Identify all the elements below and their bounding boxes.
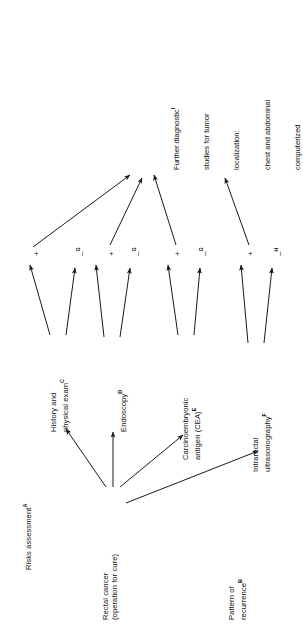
marker-symbol: – [133,252,142,256]
node-carcinoembryonic-antigen: Carcinoembryonicantigen (CEA)E [182,398,202,460]
further-studies-line: studies for tumor [202,62,212,170]
cea-line2: antigen (CEA)E [191,398,202,460]
edges-markers-to-further-studies [33,175,249,247]
node-further-diagnostic-studies: Further diagnosticI studies for tumor lo… [150,62,303,170]
marker-symbol: + [107,251,116,256]
marker-cea-negative: –G [199,248,209,257]
ultrasound-superscript: F [261,413,267,416]
pattern-of-recurrence-superscript: B [237,579,243,583]
risks-assessment-text: Risks assessment [24,508,33,570]
marker-endo-positive: + [106,251,116,256]
marker-superscript: H [273,248,279,252]
marker-us-negative: –H [274,248,284,256]
node-endoscopy: EndoscopyD [117,390,128,432]
node-intrarectal-ultrasonography: IntrarectalultrasonographyF [252,413,272,472]
further-studies-title-line: Further diagnosticI [170,62,182,170]
marker-endo-negative: –G [132,248,142,257]
history-exam-text: physical exam [60,383,69,432]
risks-assessment-superscript: A [22,504,28,508]
marker-hx-positive: + [31,251,41,256]
marker-symbol: – [77,252,86,256]
pattern-of-recurrence-line1: Pattern of [228,579,237,620]
pattern-of-recurrence-text: recurrence [238,583,247,620]
ultrasound-text: ultrasonography [262,416,271,472]
marker-symbol: + [173,251,182,256]
cea-line1: Carcinoembryonic [182,398,191,460]
node-pattern-of-recurrence: Pattern ofrecurrenceB [228,579,248,620]
rectal-cancer-line2: (operation for cure) [111,554,120,620]
node-rectal-cancer: Rectal cancer(operation for cure) [102,554,120,620]
node-history-and-physical-exam: History andphysical examC [50,379,70,432]
ultrasound-line2: ultrasonographyF [261,413,272,472]
history-exam-superscript: C [59,379,65,383]
pattern-of-recurrence-line2: recurrenceB [237,579,248,620]
marker-superscript: G [198,248,204,252]
marker-symbol: – [275,252,284,256]
marker-symbol: + [32,251,41,256]
cea-text: antigen (CEA) [192,411,201,460]
marker-symbol: + [246,251,255,256]
endoscopy-superscript: D [117,390,123,394]
marker-cea-positive: + [172,251,182,256]
further-studies-superscript: I [170,108,176,110]
marker-us-positive: + [245,251,255,256]
marker-symbol: – [200,252,209,256]
further-studies-line: computerized [293,62,303,170]
endoscopy-text: Endoscopy [119,394,128,432]
history-exam-line2: physical examC [59,379,70,432]
further-studies-line: chest and abdominal [263,62,273,170]
further-studies-line: localization: [232,62,242,170]
marker-superscript: G [75,248,81,252]
history-exam-line1: History and [50,379,59,432]
marker-hx-negative: –G [76,248,86,257]
cea-superscript: E [191,408,197,412]
figure-canvas: Risks assessmentA Rectal cancer(operatio… [0,0,303,640]
ultrasound-line1: Intrarectal [252,413,261,472]
edges-primary-to-modalities [66,429,258,503]
node-risks-assessment: Risks assessmentA [22,504,33,570]
marker-superscript: G [131,248,137,252]
edges-modality-to-markers [30,265,272,343]
further-studies-title: Further diagnostic [172,109,181,170]
